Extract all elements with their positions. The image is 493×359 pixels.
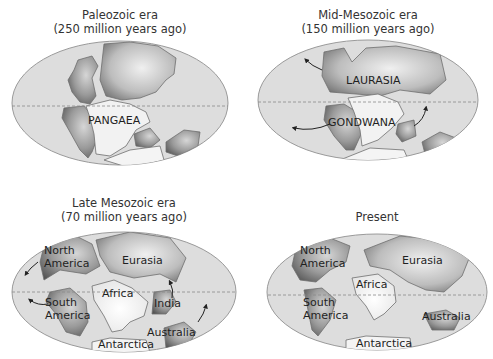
landmass: [322, 46, 446, 96]
panel-title-line1: Present: [355, 210, 399, 224]
panel-paleozoic: Paleozoic era (250 million years ago) PA…: [12, 8, 228, 168]
panel-late-mesozoic: Late Mesozoic era (70 million years ago)…: [12, 196, 236, 354]
panel-title-line1: Mid-Mesozoic era: [318, 8, 418, 22]
continental-drift-figure: Paleozoic era (250 million years ago) PA…: [0, 0, 493, 359]
label-eurasia: Eurasia: [122, 254, 163, 267]
label-laurasia: LAURASIA: [346, 74, 401, 87]
panel-title-line1: Late Mesozoic era: [72, 196, 176, 210]
label-america: America: [300, 257, 345, 270]
label-africa: Africa: [102, 287, 133, 300]
label-south: South: [45, 296, 77, 309]
label-america: America: [303, 309, 348, 322]
label-antarctica: Antarctica: [356, 337, 412, 350]
label-australia: Australia: [422, 310, 471, 323]
label-north: North: [300, 244, 331, 257]
panel-mid-mesozoic: Mid-Mesozoic era (150 million years ago)…: [258, 8, 478, 168]
label-america: America: [44, 257, 89, 270]
label-north: North: [44, 244, 75, 257]
panel-title-line2: (250 million years ago): [53, 22, 186, 36]
label-south: South: [303, 296, 335, 309]
label-gondwana: GONDWANA: [328, 116, 396, 129]
label-pangaea: PANGAEA: [88, 114, 141, 127]
label-australia: Australia: [147, 326, 196, 339]
label-antarctica: Antarctica: [98, 338, 154, 351]
label-india: India: [154, 297, 181, 310]
panel-present: Present North America Eurasia Africa Sou…: [267, 210, 487, 354]
panel-title-line2: (150 million years ago): [301, 22, 434, 36]
label-america: America: [45, 309, 90, 322]
panel-title-line1: Paleozoic era: [82, 8, 158, 22]
label-africa: Africa: [356, 278, 387, 291]
panel-title-line2: (70 million years ago): [61, 210, 187, 224]
label-eurasia: Eurasia: [402, 254, 443, 267]
